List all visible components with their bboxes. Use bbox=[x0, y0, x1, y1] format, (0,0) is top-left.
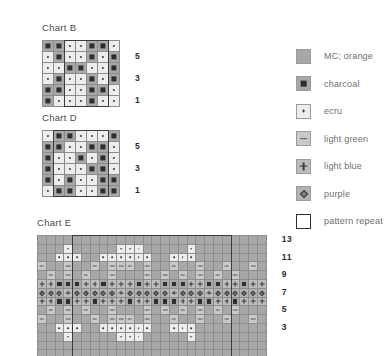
chart-cell bbox=[135, 271, 144, 280]
chart-cell bbox=[73, 306, 82, 315]
ecru-dot-symbol bbox=[80, 168, 82, 170]
light-green-dash-symbol bbox=[119, 319, 124, 320]
chart-cell bbox=[56, 298, 65, 307]
legend-swatch-ecru-icon bbox=[296, 104, 311, 119]
chart-cell bbox=[108, 236, 117, 245]
chart-cell bbox=[56, 236, 65, 245]
chart-cell bbox=[73, 245, 82, 254]
chart-cell bbox=[108, 280, 117, 289]
chart-cell bbox=[108, 262, 117, 271]
light-green-dash-symbol bbox=[233, 275, 238, 276]
chart-cell bbox=[258, 350, 267, 356]
chart-cell bbox=[109, 96, 120, 107]
chart-cell bbox=[179, 306, 188, 315]
chart-cell bbox=[223, 245, 232, 254]
chart-cell bbox=[64, 245, 73, 254]
chart-cell bbox=[56, 333, 65, 342]
ecru-dot-symbol bbox=[129, 248, 131, 250]
chart-cell bbox=[43, 96, 54, 107]
legend-item-purple: purple bbox=[296, 182, 383, 206]
chart-cell bbox=[205, 245, 214, 254]
chart-cell bbox=[100, 271, 109, 280]
chart-cell bbox=[232, 306, 241, 315]
chart-cell bbox=[126, 333, 135, 342]
chart-cell bbox=[54, 52, 65, 63]
chart-cell bbox=[214, 280, 223, 289]
chart-cell bbox=[43, 142, 54, 153]
chart-cell bbox=[117, 271, 126, 280]
chart-cell bbox=[108, 289, 117, 298]
ecru-dot-symbol bbox=[113, 89, 115, 91]
charcoal-symbol bbox=[100, 166, 105, 171]
chart-cell bbox=[144, 289, 153, 298]
chart-cell bbox=[43, 41, 54, 52]
chart-cell bbox=[135, 342, 144, 351]
chart-cell bbox=[56, 280, 65, 289]
chart-cell bbox=[98, 175, 109, 186]
chart-cell bbox=[87, 131, 98, 142]
chart-cell bbox=[87, 175, 98, 186]
ecru-dot-symbol bbox=[113, 146, 115, 148]
chart-e-block: Chart E 13119753 bbox=[37, 217, 267, 356]
chart-cell bbox=[108, 333, 117, 342]
charcoal-symbol bbox=[75, 282, 79, 286]
chart-cell bbox=[38, 342, 47, 351]
charcoal-symbol bbox=[172, 282, 176, 286]
chart-d-row-numbers: 531 bbox=[135, 130, 175, 196]
chart-cell bbox=[258, 262, 267, 271]
purple-diamond-symbol bbox=[250, 290, 255, 295]
chart-cell bbox=[249, 271, 258, 280]
chart-cell bbox=[91, 271, 100, 280]
chart-cell bbox=[249, 280, 258, 289]
chart-cell bbox=[205, 280, 214, 289]
light-green-dash-symbol bbox=[66, 310, 71, 311]
chart-cell bbox=[100, 350, 109, 356]
light-green-dash-symbol bbox=[216, 310, 221, 311]
chart-cell bbox=[76, 164, 87, 175]
chart-cell bbox=[249, 236, 258, 245]
chart-cell bbox=[43, 153, 54, 164]
chart-cell bbox=[64, 271, 73, 280]
ecru-dot-symbol bbox=[138, 327, 140, 329]
ecru-dot-symbol bbox=[129, 257, 131, 259]
chart-cell bbox=[161, 342, 170, 351]
chart-cell bbox=[126, 262, 135, 271]
light-blue-plus-symbol bbox=[82, 298, 90, 306]
ecru-dot-symbol bbox=[147, 327, 149, 329]
ecru-dot-symbol bbox=[191, 336, 193, 338]
chart-d-block: Chart D 531 bbox=[42, 112, 120, 197]
chart-cell bbox=[161, 350, 170, 356]
chart-cell bbox=[205, 315, 214, 324]
ecru-dot-symbol bbox=[102, 100, 104, 102]
charcoal-symbol bbox=[67, 188, 72, 193]
legend-item-blue: light blue bbox=[296, 154, 383, 178]
chart-cell bbox=[100, 254, 109, 263]
chart-cell bbox=[258, 306, 267, 315]
light-blue-plus-symbol bbox=[135, 298, 143, 306]
chart-cell bbox=[232, 271, 241, 280]
chart-cell bbox=[214, 245, 223, 254]
charcoal-symbol bbox=[89, 87, 94, 92]
light-blue-plus-symbol bbox=[223, 280, 231, 288]
chart-b-grid bbox=[42, 40, 120, 107]
chart-cell bbox=[240, 342, 249, 351]
purple-diamond-symbol bbox=[101, 290, 106, 295]
purple-diamond-symbol bbox=[75, 290, 80, 295]
chart-cell bbox=[196, 324, 205, 333]
chart-cell bbox=[144, 306, 153, 315]
chart-b-grid-wrap: 531 bbox=[42, 40, 120, 107]
chart-cell bbox=[144, 262, 153, 271]
chart-cell bbox=[196, 289, 205, 298]
chart-cell bbox=[205, 289, 214, 298]
legend-swatch-blue-icon bbox=[296, 159, 311, 174]
legend-swatch-green-icon bbox=[296, 131, 311, 146]
chart-cell bbox=[232, 280, 241, 289]
charcoal-symbol bbox=[66, 299, 70, 303]
chart-cell bbox=[117, 289, 126, 298]
chart-cell bbox=[117, 298, 126, 307]
chart-cell bbox=[91, 262, 100, 271]
ecru-dot-symbol bbox=[113, 100, 115, 102]
chart-cell bbox=[135, 262, 144, 271]
chart-cell bbox=[65, 74, 76, 85]
chart-cell bbox=[38, 245, 47, 254]
